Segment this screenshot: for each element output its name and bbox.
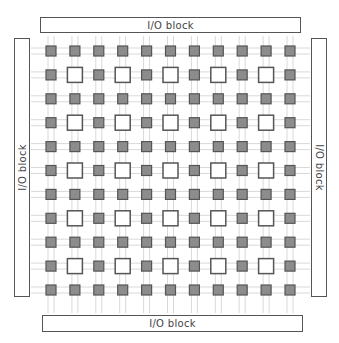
- logic-block: [67, 115, 82, 130]
- logic-block: [259, 163, 274, 178]
- switch-box: [285, 166, 295, 176]
- switch-box: [46, 237, 56, 247]
- switch-box: [70, 46, 80, 56]
- logic-block: [115, 67, 130, 82]
- switch-box: [142, 70, 152, 80]
- switch-box: [166, 189, 176, 199]
- switch-box: [142, 189, 152, 199]
- io-block-left: I/O block: [14, 38, 30, 297]
- switch-box: [46, 261, 56, 271]
- switch-box: [142, 46, 152, 56]
- switch-box: [94, 94, 104, 104]
- switch-box: [166, 285, 176, 295]
- switch-box: [94, 261, 104, 271]
- switch-box: [285, 142, 295, 152]
- switch-box: [261, 237, 271, 247]
- logic-block: [115, 211, 130, 226]
- switch-box: [189, 142, 199, 152]
- switch-box: [213, 46, 223, 56]
- io-block-left-label: I/O block: [17, 144, 28, 191]
- logic-block: [259, 211, 274, 226]
- switch-box: [70, 189, 80, 199]
- logic-block: [163, 211, 178, 226]
- switch-box: [118, 189, 128, 199]
- switch-box: [189, 166, 199, 176]
- switch-box: [285, 261, 295, 271]
- switch-box: [94, 166, 104, 176]
- switch-box: [213, 285, 223, 295]
- switch-box: [142, 166, 152, 176]
- switch-box: [94, 189, 104, 199]
- logic-block: [259, 115, 274, 130]
- io-block-bottom: I/O block: [42, 315, 303, 332]
- switch-box: [142, 237, 152, 247]
- switch-box: [285, 213, 295, 223]
- switch-box: [237, 118, 247, 128]
- switch-box: [189, 70, 199, 80]
- switch-box: [189, 261, 199, 271]
- switch-box: [94, 70, 104, 80]
- switch-box: [237, 94, 247, 104]
- logic-block: [163, 67, 178, 82]
- switch-box: [237, 70, 247, 80]
- switch-box: [285, 70, 295, 80]
- io-block-right: I/O block: [311, 38, 327, 297]
- switch-box: [166, 237, 176, 247]
- switch-box: [261, 285, 271, 295]
- switch-box: [46, 46, 56, 56]
- io-block-top-label: I/O block: [147, 20, 194, 31]
- switch-box: [189, 118, 199, 128]
- switch-box: [70, 94, 80, 104]
- switch-box: [189, 237, 199, 247]
- switch-box: [46, 70, 56, 80]
- switch-box: [46, 213, 56, 223]
- switch-box: [94, 237, 104, 247]
- switch-box: [237, 46, 247, 56]
- logic-block: [67, 163, 82, 178]
- switch-box: [46, 94, 56, 104]
- io-block-bottom-label: I/O block: [149, 318, 196, 329]
- logic-block: [259, 259, 274, 274]
- switch-box: [94, 142, 104, 152]
- switch-box: [46, 166, 56, 176]
- logic-block: [67, 211, 82, 226]
- logic-block: [211, 211, 226, 226]
- switch-box: [237, 285, 247, 295]
- switch-box: [70, 285, 80, 295]
- switch-box: [237, 142, 247, 152]
- switch-box: [118, 237, 128, 247]
- switch-box: [118, 142, 128, 152]
- logic-block: [115, 259, 130, 274]
- switch-box: [166, 142, 176, 152]
- switch-box: [189, 189, 199, 199]
- io-block-right-label: I/O block: [314, 144, 325, 191]
- switch-box: [237, 237, 247, 247]
- logic-block: [163, 259, 178, 274]
- switch-box: [46, 285, 56, 295]
- switch-box: [142, 118, 152, 128]
- switch-box: [213, 142, 223, 152]
- switch-box: [213, 94, 223, 104]
- switch-box: [94, 46, 104, 56]
- switch-box: [237, 261, 247, 271]
- switch-box: [94, 118, 104, 128]
- logic-block: [211, 115, 226, 130]
- switch-box: [118, 46, 128, 56]
- switch-box: [285, 237, 295, 247]
- switch-box: [261, 142, 271, 152]
- switch-box: [261, 189, 271, 199]
- logic-block: [163, 163, 178, 178]
- logic-block: [211, 259, 226, 274]
- logic-block: [67, 259, 82, 274]
- switch-box: [285, 118, 295, 128]
- io-block-top: I/O block: [40, 17, 301, 33]
- switch-box: [142, 285, 152, 295]
- switch-box: [46, 118, 56, 128]
- switch-box: [285, 94, 295, 104]
- switch-box: [237, 166, 247, 176]
- logic-block: [115, 163, 130, 178]
- switch-box: [261, 46, 271, 56]
- switch-box: [285, 46, 295, 56]
- switch-box: [189, 94, 199, 104]
- switch-box: [166, 46, 176, 56]
